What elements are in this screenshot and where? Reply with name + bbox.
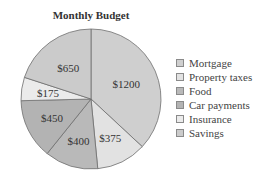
legend-item-car-payments: Car payments	[176, 98, 252, 112]
legend-item-food: Food	[176, 84, 252, 98]
slice-label: $375	[99, 132, 122, 144]
swatch-icon	[176, 115, 184, 123]
legend-item-insurance: Insurance	[176, 112, 252, 126]
pie-chart: $1200$375$400$450$175$650	[0, 0, 182, 184]
legend-item-savings: Savings	[176, 126, 252, 140]
slice-label: $650	[57, 62, 80, 74]
slice-label: $450	[41, 112, 64, 124]
swatch-icon	[176, 101, 184, 109]
legend-item-property-taxes: Property taxes	[176, 70, 252, 84]
swatch-icon	[176, 129, 184, 137]
slice-label: $175	[37, 87, 60, 99]
swatch-icon	[176, 87, 184, 95]
legend-item-mortgage: Mortgage	[176, 56, 252, 70]
legend: Mortgage Property taxes Food Car payment…	[176, 56, 252, 140]
slice-label: $1200	[113, 78, 141, 90]
swatch-icon	[176, 73, 184, 81]
swatch-icon	[176, 59, 184, 67]
slice-label: $400	[68, 135, 91, 147]
